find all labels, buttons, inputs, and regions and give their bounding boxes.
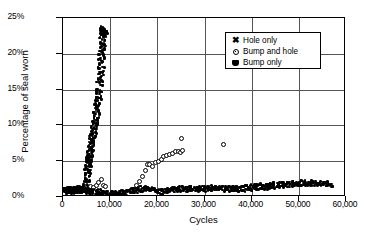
data-point-hole-only <box>90 148 93 151</box>
data-point-bump-and-hole <box>179 136 184 141</box>
data-point-hole-only <box>100 28 103 31</box>
square-filled-marker-icon <box>229 60 242 66</box>
data-point-hole-only <box>99 47 102 50</box>
data-point-hole-only <box>98 113 101 116</box>
data-point-bump-only <box>292 183 295 186</box>
legend-label: Bump only <box>242 57 282 68</box>
data-point-bump-only <box>139 185 142 188</box>
data-point-bump-and-hole <box>103 184 108 189</box>
data-point-hole-only <box>98 67 101 70</box>
x-tick-mark <box>251 196 252 201</box>
data-point-hole-only <box>95 128 98 131</box>
data-point-bump-only <box>330 183 333 186</box>
data-point-bump-only <box>92 189 95 192</box>
data-point-hole-only <box>91 120 94 123</box>
y-tick-label: 5% <box>0 155 24 164</box>
data-point-bump-only <box>100 194 103 196</box>
data-point-bump-only <box>330 185 333 188</box>
data-point-hole-only <box>95 132 98 135</box>
y-tick-label: 20% <box>0 48 24 57</box>
chart-legend: ✖ Hole only Bump and hole Bump only <box>225 32 321 69</box>
data-point-hole-only <box>99 84 102 87</box>
data-point-bump-and-hole <box>137 179 142 184</box>
data-point-hole-only <box>93 117 96 120</box>
data-point-hole-only <box>98 109 101 112</box>
y-tick-label: 15% <box>0 84 24 93</box>
legend-item-bump-and-hole: Bump and hole <box>229 46 320 57</box>
data-point-bump-and-hole <box>143 168 148 173</box>
data-point-bump-only <box>326 180 329 183</box>
data-point-hole-only <box>97 123 100 126</box>
data-point-bump-and-hole <box>99 177 104 182</box>
data-point-hole-only <box>96 99 99 102</box>
data-point-hole-only <box>100 71 103 74</box>
data-point-hole-only <box>91 158 94 161</box>
data-point-hole-only <box>97 53 100 56</box>
data-point-bump-only <box>251 189 254 192</box>
y-tick-label: 0% <box>0 191 24 200</box>
data-point-hole-only <box>102 70 105 73</box>
data-point-bump-and-hole <box>180 148 185 153</box>
data-point-bump-only <box>168 188 171 191</box>
y-tick-label: 25% <box>0 12 24 21</box>
x-tick-mark <box>204 196 205 201</box>
data-point-bump-only <box>187 189 190 192</box>
data-point-hole-only <box>99 42 102 45</box>
data-point-bump-only <box>191 190 194 193</box>
x-cross-marker-icon: ✖ <box>229 36 242 45</box>
data-point-hole-only <box>102 53 105 56</box>
legend-label: Bump and hole <box>242 46 298 57</box>
data-point-hole-only <box>84 172 87 175</box>
legend-item-hole-only: ✖ Hole only <box>229 35 320 46</box>
y-tick-label: 10% <box>0 119 24 128</box>
data-point-hole-only <box>104 48 107 51</box>
chart-container: Percentage of seal worn 0%5%10%15%20%25%… <box>0 0 373 240</box>
diamond-open-marker-icon <box>229 49 242 55</box>
data-point-bump-and-hole <box>140 174 145 179</box>
data-point-bump-only <box>105 192 108 195</box>
x-tick-mark <box>62 196 63 201</box>
data-point-bump-only <box>142 190 145 193</box>
data-point-hole-only <box>91 138 94 141</box>
data-point-hole-only <box>90 169 93 172</box>
data-point-bump-only <box>156 190 159 193</box>
data-point-bump-only <box>193 186 196 189</box>
legend-item-bump-only: Bump only <box>229 57 320 68</box>
data-point-hole-only <box>85 178 88 181</box>
data-point-hole-only <box>88 180 91 183</box>
data-point-hole-only <box>95 88 98 91</box>
data-point-bump-only <box>126 195 129 196</box>
legend-label: Hole only <box>242 35 277 46</box>
y-axis-title: Percentage of seal worn <box>19 12 30 192</box>
data-point-hole-only <box>95 96 98 99</box>
data-point-hole-only <box>88 175 91 178</box>
x-tick-mark <box>156 196 157 201</box>
x-axis-title: Cycles <box>62 214 345 225</box>
data-point-bump-and-hole <box>221 142 226 147</box>
data-point-hole-only <box>102 74 105 77</box>
x-tick-mark <box>109 196 110 201</box>
data-point-hole-only <box>102 61 105 64</box>
data-point-hole-only <box>105 31 108 34</box>
data-point-hole-only <box>103 43 106 46</box>
data-point-hole-only <box>99 90 102 93</box>
x-tick-mark <box>345 196 346 201</box>
data-point-hole-only <box>100 79 103 82</box>
data-point-bump-only <box>272 181 275 184</box>
x-tick-mark <box>298 196 299 201</box>
